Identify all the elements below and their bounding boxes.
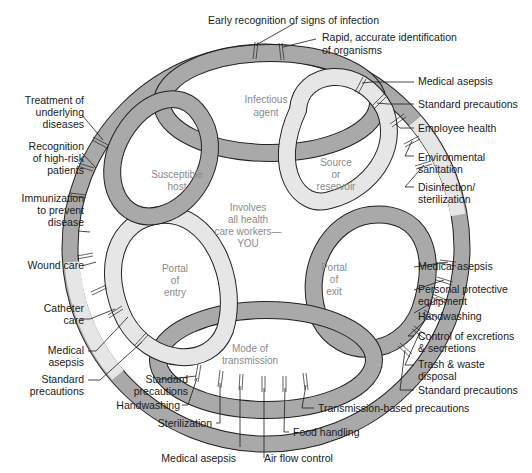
intervention-labels: Early recognition of signs of infection … [22,14,518,464]
label-food-handling: Food handling [293,426,360,438]
label-mode-of-transmission: Mode oftransmission [222,343,278,366]
label-disinfection-sterilization: Disinfection/sterilization [418,181,475,205]
label-wound-care: Wound care [28,259,85,271]
label-employee-health: Employee health [418,122,496,134]
center-text: Involvesall healthcare workers—YOU [214,202,281,249]
label-source-medical-asepsis: Medical asepsis [418,75,493,87]
label-immunization: Immunizationto preventdisease [22,192,85,228]
label-environmental-sanitation: Environmentalsanitation [418,151,485,175]
label-source-reservoir: Sourceorreservoir [317,157,357,192]
label-control-excretions: Control of excretions& secretions [418,330,514,354]
label-trash-waste: Trash & wastedisposal [418,358,485,382]
label-recognition-high-risk: Recognitionof high-riskpatients [29,140,85,176]
label-infectious-agent: Infectiousagent [245,94,288,118]
label-early-recognition: Early recognition of signs of infection [208,14,379,26]
label-treatment-underlying: Treatment ofunderlyingdiseases [25,94,84,130]
chain-of-infection-diagram: Infectiousagent Sourceorreservoir Portal… [0,0,532,473]
label-exit-standard-precautions: Standard precautions [418,384,518,396]
label-transmission-medical-asepsis: Medical asepsis [161,452,236,464]
label-transmission-standard-precautions: Standardprecautions [134,373,188,397]
label-air-flow-control: Air flow control [264,452,333,464]
label-source-standard-precautions: Standard precautions [418,98,518,110]
label-portal-of-entry: Portalofentry [162,263,188,298]
label-personal-protective-equipment: Personal protectiveequipment [418,283,508,307]
label-transmission-based-precautions: Transmission-based precautions [318,402,469,414]
label-catheter-care: Cathetercare [44,302,85,326]
label-exit-medical-asepsis: Medical asepsis [418,260,493,272]
label-exit-handwashing: Handwashing [418,310,482,322]
label-transmission-handwashing: Handwashing [116,399,180,411]
label-sterilization: Sterilization [158,417,212,429]
label-entry-standard-precautions: Standardprecautions [30,373,84,397]
label-portal-of-exit: Portalofexit [321,262,347,297]
label-entry-medical-asepsis: Medicalasepsis [48,344,84,368]
label-rapid-identification: Rapid, accurate identificationof organis… [322,31,457,56]
